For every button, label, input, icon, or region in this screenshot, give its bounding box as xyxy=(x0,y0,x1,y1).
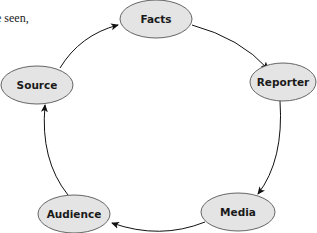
node-media: Media xyxy=(201,193,275,231)
node-label: Facts xyxy=(140,13,171,25)
node-audience: Audience xyxy=(38,195,110,233)
edge-facts-to-reporter xyxy=(192,25,268,69)
node-facts: Facts xyxy=(120,0,192,38)
node-label: Reporter xyxy=(257,76,310,88)
node-reporter: Reporter xyxy=(250,63,316,101)
node-label: Audience xyxy=(47,208,102,220)
edge-audience-to-source xyxy=(44,105,68,195)
node-label: Media xyxy=(220,206,256,218)
edge-reporter-to-media xyxy=(258,101,281,194)
edge-source-to-facts xyxy=(60,25,118,68)
edge-media-to-audience xyxy=(112,222,205,231)
node-source: Source xyxy=(1,66,73,104)
node-label: Source xyxy=(17,79,58,91)
cycle-diagram: Facts Reporter Media Audience Source xyxy=(0,0,317,233)
